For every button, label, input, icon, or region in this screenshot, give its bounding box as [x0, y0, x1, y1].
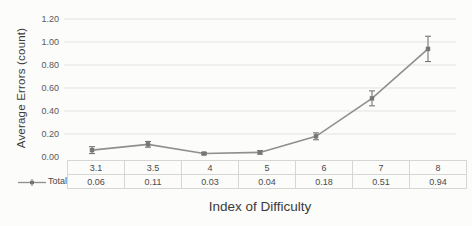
value-cell: 0.18	[295, 174, 352, 189]
y-tick-label: 0.60	[41, 83, 59, 93]
y-tick-label: 0.80	[41, 60, 59, 70]
data-point-marker	[202, 151, 206, 155]
x-axis-title: Index of Difficulty	[64, 199, 456, 214]
chart-plot-area: 0.000.200.400.600.801.001.20	[0, 0, 472, 160]
value-cell: 0.51	[352, 174, 409, 189]
y-tick-label: 1.20	[41, 14, 59, 24]
legend-label: Total	[48, 176, 67, 186]
data-table: 3.13.545678 Total 0.060.110.030.040.180.…	[10, 160, 467, 189]
category-cell: 4	[181, 160, 238, 174]
category-cell: 3.5	[124, 160, 181, 174]
category-cell: 8	[409, 160, 467, 174]
y-tick-label: 0.40	[41, 106, 59, 116]
value-cell: 0.03	[181, 174, 238, 189]
category-cell: 7	[352, 160, 409, 174]
table-corner-cell	[10, 160, 67, 174]
category-cell: 6	[295, 160, 352, 174]
category-cell: 5	[238, 160, 295, 174]
value-row: Total 0.060.110.030.040.180.510.94	[10, 174, 467, 189]
value-cell: 0.11	[124, 174, 181, 189]
line-chart-figure: Average Errors (count) 0.000.200.400.600…	[0, 0, 472, 226]
data-point-marker	[314, 134, 318, 138]
category-row: 3.13.545678	[10, 160, 467, 174]
legend-cell: Total	[10, 174, 67, 189]
data-point-marker	[146, 142, 150, 146]
y-tick-label: 0.00	[41, 152, 59, 160]
legend-line-marker-icon	[18, 178, 46, 187]
value-cell: 0.06	[67, 174, 124, 189]
value-cell: 0.94	[409, 174, 467, 189]
data-point-marker	[426, 47, 430, 51]
value-cell: 0.04	[238, 174, 295, 189]
y-tick-label: 0.20	[41, 129, 59, 139]
y-tick-label: 1.00	[41, 37, 59, 47]
data-point-marker	[370, 96, 374, 100]
data-point-marker	[90, 148, 94, 152]
category-cell: 3.1	[67, 160, 124, 174]
data-point-marker	[258, 150, 262, 154]
